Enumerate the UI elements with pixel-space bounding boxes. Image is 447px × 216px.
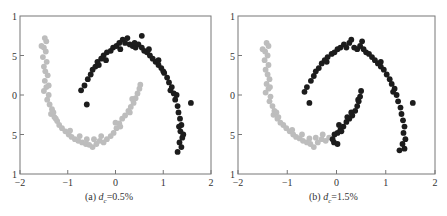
data-point [160,68,166,74]
data-point [324,59,330,65]
data-point [402,124,408,130]
scatter-plot-a: −2−101215051 [0,0,223,216]
data-point [46,83,52,89]
caption-a: (a) dc=0.5% [85,191,133,205]
data-point [348,37,354,43]
data-point [395,98,401,104]
y-tick-label: 1 [230,169,235,180]
y-tick-label: 0 [230,90,235,101]
data-point [304,84,310,90]
data-point [98,133,104,139]
data-point [398,105,404,111]
data-point [400,117,406,123]
y-tick-label: 5 [230,130,235,141]
data-point [84,102,90,108]
data-point [53,116,59,122]
data-point [40,54,46,60]
data-point [139,33,145,39]
x-tick-label: 0 [113,177,118,188]
data-point [175,103,181,109]
y-tick-label: 5 [12,51,17,62]
scatter-panel-b: −2−101215051 (b) dc=1.5% [218,0,447,216]
data-point [267,84,273,90]
data-point [117,124,123,130]
data-point [403,136,409,142]
data-point [91,136,97,142]
cluster-2-points [302,37,416,153]
data-point [355,97,361,103]
data-point [399,111,405,117]
x-tick-label: 2 [433,177,438,188]
data-point [67,128,73,134]
data-point [262,57,268,63]
y-tick-label: 5 [230,51,235,62]
data-point [336,122,342,128]
data-point [401,130,407,136]
data-point [358,88,364,94]
data-point [177,116,183,122]
data-point [78,87,84,93]
data-point [308,78,314,84]
y-tick-label: 1 [230,11,235,22]
data-point [84,136,90,142]
data-point [320,132,326,138]
data-point [45,72,51,78]
x-tick-label: 2 [209,177,214,188]
data-point [307,100,313,106]
data-point [43,38,49,44]
data-point [267,98,273,104]
cluster-1-points [260,40,332,150]
data-point [390,89,396,95]
data-point [313,135,319,141]
data-point [188,100,194,106]
x-tick-label: 0 [334,177,339,188]
data-point [42,78,48,84]
data-point [266,43,272,49]
data-point [103,57,109,63]
x-tick-label: 1 [383,177,388,188]
data-point [276,114,282,120]
data-point [41,88,47,94]
data-point [174,92,180,98]
data-point [43,49,49,55]
data-point [113,120,119,126]
caption-value: =1.5% [331,191,357,202]
caption-label: (a) [85,191,96,202]
data-point [179,144,185,150]
y-tick-label: 1 [12,11,17,22]
y-tick-label: 1 [12,169,17,180]
data-point [129,96,135,102]
data-point [311,144,317,150]
data-point [127,110,133,116]
data-point [335,141,341,147]
data-point [359,38,365,44]
data-point [344,114,350,120]
data-point [156,57,162,63]
data-point [299,132,305,138]
data-point [260,46,266,52]
data-point [289,127,295,133]
data-point [307,136,313,142]
x-tick-label: 1 [161,177,166,188]
x-tick-label: −1 [62,177,73,188]
x-tick-label: −1 [282,177,293,188]
data-point [176,124,182,130]
scatter-panel-a: −2−101215051 (a) dc=0.5% [0,0,223,216]
data-point [381,67,387,73]
data-point [378,59,384,65]
data-point [39,43,45,49]
data-point [339,128,345,134]
data-point [117,46,123,52]
data-point [77,133,83,139]
data-point [397,147,403,153]
data-point [125,35,131,41]
caption-b: (b) dc=1.5% [309,191,358,205]
data-point [348,110,354,116]
data-point [389,81,395,87]
data-point [175,149,181,155]
data-point [263,90,269,96]
data-point [137,82,143,88]
data-point [96,62,102,68]
caption-value: =0.5% [107,191,133,202]
data-point [180,132,186,138]
